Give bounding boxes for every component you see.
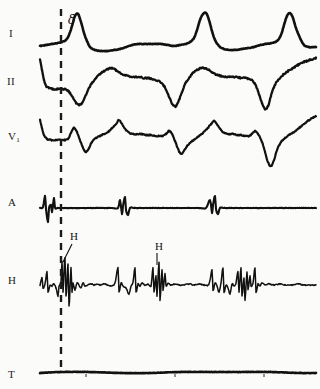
trace-v1 [40,116,316,166]
trace-h [40,258,316,306]
trace-group [40,13,316,377]
lead-label-a: A [8,196,16,208]
lead-label-ii: II [7,75,15,87]
trace-a [40,196,316,222]
trace-ii [40,58,316,110]
annotation-leader-group [63,244,157,265]
delta-wave-annotation: δ [68,13,75,27]
lead-label-i: I [9,27,13,39]
trace-t [40,372,316,374]
lead-label-v1-subscript: 1 [16,136,20,144]
trace-i [40,13,316,52]
his-deflection-annotation-1: H [70,230,78,242]
ecg-recording-figure: I II V1 A H T δ H H [0,0,320,389]
annotation-leader-his-1 [63,244,72,262]
his-deflection-annotation-2: H [155,240,163,252]
lead-label-t: T [8,368,15,380]
lead-label-h: H [8,274,16,286]
lead-label-v1: V1 [8,130,20,142]
waveform-canvas [0,0,320,389]
